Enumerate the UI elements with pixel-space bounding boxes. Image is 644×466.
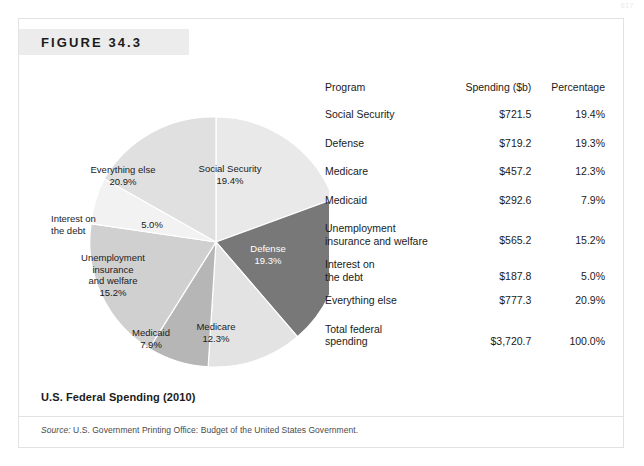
pie-label-defense: Defense 19.3% bbox=[232, 243, 304, 266]
cell-program: Medicare bbox=[325, 165, 450, 194]
figure-caption: U.S. Federal Spending (2010) bbox=[41, 391, 195, 403]
cell-program: Unemployment insurance and welfare bbox=[325, 222, 450, 258]
page-number: 617 bbox=[621, 2, 634, 9]
cell-program: Interest on the debt bbox=[325, 258, 450, 294]
source-label: Source: bbox=[41, 425, 71, 435]
cell-program: Everything else bbox=[325, 294, 450, 323]
table-row: Everything else $777.3 20.9% bbox=[325, 294, 607, 323]
cell-spending: $187.8 bbox=[450, 258, 540, 294]
column-header-percentage: Percentage bbox=[539, 81, 607, 108]
pie-chart: Social Security 19.4% Defense 19.3% Medi… bbox=[19, 65, 329, 385]
cell-percentage: 12.3% bbox=[539, 165, 607, 194]
spending-table: Program Spending ($b) Percentage Social … bbox=[325, 81, 607, 359]
table-row: Defense $719.2 19.3% bbox=[325, 137, 607, 166]
pie-label-interest-on-the-debt: Interest on the debt bbox=[51, 213, 129, 236]
pie-label-unemployment: Unemployment insurance and welfare 15.2% bbox=[55, 252, 171, 298]
figure-tag-label: FIGURE 34.3 bbox=[41, 35, 142, 50]
cell-spending: $777.3 bbox=[450, 294, 540, 323]
pie-label-medicare: Medicare 12.3% bbox=[180, 321, 252, 344]
table-header-row: Program Spending ($b) Percentage bbox=[325, 81, 607, 108]
table-row: Medicare $457.2 12.3% bbox=[325, 165, 607, 194]
cell-percentage: 15.2% bbox=[539, 222, 607, 258]
pie-label-everything-else: Everything else 20.9% bbox=[61, 164, 185, 187]
cell-program: Social Security bbox=[325, 108, 450, 137]
pie-label-interest-on-the-debt-percentage: 5.0% bbox=[131, 219, 173, 231]
column-header-program: Program bbox=[325, 81, 450, 108]
table-row: Medicaid $292.6 7.9% bbox=[325, 194, 607, 223]
table-row-total: Total federal spending $3,720.7 100.0% bbox=[325, 323, 607, 359]
cell-percentage: 5.0% bbox=[539, 258, 607, 294]
cell-spending: $565.2 bbox=[450, 222, 540, 258]
cell-spending: $457.2 bbox=[450, 165, 540, 194]
cell-spending: $719.2 bbox=[450, 137, 540, 166]
cell-percentage: 19.4% bbox=[539, 108, 607, 137]
figure-tag: FIGURE 34.3 bbox=[19, 29, 189, 55]
pie-label-social-security: Social Security 19.4% bbox=[182, 163, 278, 186]
cell-percentage: 20.9% bbox=[539, 294, 607, 323]
cell-spending: $3,720.7 bbox=[450, 323, 540, 359]
cell-spending: $292.6 bbox=[450, 194, 540, 223]
cell-program: Total federal spending bbox=[325, 323, 450, 359]
cell-percentage: 100.0% bbox=[539, 323, 607, 359]
table-row: Unemployment insurance and welfare $565.… bbox=[325, 222, 607, 258]
cell-percentage: 7.9% bbox=[539, 194, 607, 223]
caption-divider bbox=[19, 416, 623, 417]
figure-source: Source: U.S. Government Printing Office:… bbox=[41, 425, 358, 435]
pie-label-medicaid: Medicaid 7.9% bbox=[114, 327, 188, 350]
table-row: Interest on the debt $187.8 5.0% bbox=[325, 258, 607, 294]
source-text: U.S. Government Printing Office: Budget … bbox=[71, 425, 358, 435]
cell-program: Defense bbox=[325, 137, 450, 166]
figure-card: FIGURE 34.3 Social Security 19.4% Defens… bbox=[18, 18, 624, 448]
table-row: Social Security $721.5 19.4% bbox=[325, 108, 607, 137]
spending-table-element: Program Spending ($b) Percentage Social … bbox=[325, 81, 607, 359]
cell-percentage: 19.3% bbox=[539, 137, 607, 166]
cell-program: Medicaid bbox=[325, 194, 450, 223]
column-header-spending: Spending ($b) bbox=[450, 81, 540, 108]
cell-spending: $721.5 bbox=[450, 108, 540, 137]
